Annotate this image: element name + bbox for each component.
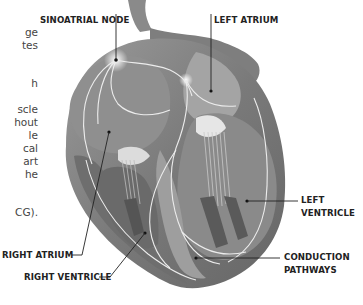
label-right-ventricle: RIGHT VENTRICLE (24, 271, 111, 283)
label-conduction-pathways-line2: PATHWAYS (284, 264, 337, 276)
label-left-atrium: LEFT ATRIUM (214, 14, 278, 26)
label-left-ventricle-line1: LEFT (301, 194, 324, 206)
label-conduction-pathways-line1: CONDUCTION (284, 251, 350, 263)
label-sinoatrial-node: SINOATRIAL NODE (40, 14, 129, 26)
label-left-ventricle-line2: VENTRICLE (301, 207, 355, 219)
label-right-atrium: RIGHT ATRIUM (2, 249, 73, 261)
